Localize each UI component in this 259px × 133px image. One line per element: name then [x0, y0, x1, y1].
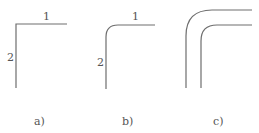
caption-a: a): [34, 116, 45, 127]
figure-b-shape: [106, 25, 155, 89]
corner-diagrams: [0, 0, 259, 133]
edge-label-b-1: 1: [132, 11, 139, 22]
edge-label-a-1: 1: [43, 11, 50, 22]
caption-c: c): [213, 116, 223, 127]
edge-label-a-2: 2: [7, 52, 14, 63]
caption-b: b): [122, 116, 133, 127]
figure-c-shape: [186, 10, 252, 88]
figure-a-shape: [16, 24, 67, 88]
edge-label-b-2: 2: [97, 57, 104, 68]
